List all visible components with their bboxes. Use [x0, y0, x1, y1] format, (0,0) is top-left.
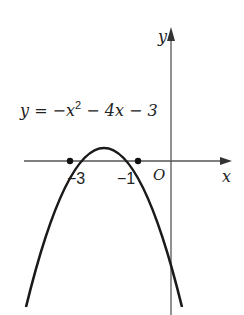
y-axis-label: y: [157, 27, 168, 46]
origin-label: O: [153, 166, 165, 184]
x-axis-label: x: [222, 167, 231, 186]
y-axis-arrow-icon: [167, 27, 175, 41]
root-label-neg3: −3: [67, 170, 85, 187]
equation-lhs: y = −x: [19, 101, 75, 120]
root-point-neg3: [67, 158, 73, 164]
x-axis-arrow-icon: [220, 157, 232, 165]
equation-label: y = −x2 − 4x − 3: [19, 99, 158, 120]
root-point-neg1: [135, 158, 141, 164]
root-label-neg1: −1: [117, 170, 135, 187]
parabola-diagram: y x O −3 −1 y = −x2 − 4x − 3: [0, 0, 244, 315]
equation-rhs: − 4x − 3: [81, 101, 158, 120]
